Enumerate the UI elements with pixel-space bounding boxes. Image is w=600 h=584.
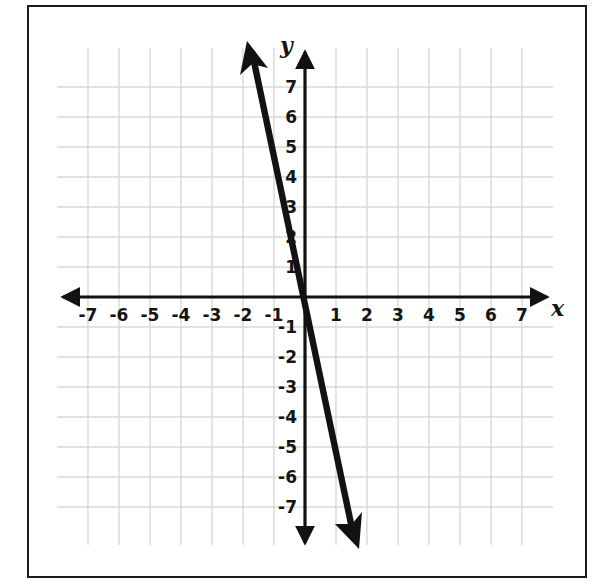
y-tick-label: 3 xyxy=(285,199,297,216)
x-tick-label: -5 xyxy=(141,307,160,324)
x-tick-label: -7 xyxy=(79,307,98,324)
x-tick-label: 5 xyxy=(454,307,466,324)
y-tick-label: -3 xyxy=(278,379,297,396)
y-axis-label: y xyxy=(280,34,293,56)
y-tick-label: -4 xyxy=(278,409,297,426)
y-tick-label: -2 xyxy=(278,349,297,366)
x-tick-label: -4 xyxy=(172,307,191,324)
y-tick-label: -7 xyxy=(278,499,297,516)
y-tick-label: 6 xyxy=(285,109,297,126)
x-tick-label: -2 xyxy=(234,307,253,324)
graph-figure: -7 -6 -5 -4 -3 -2 -1 1 2 3 4 5 6 7 7 6 5… xyxy=(0,0,600,584)
x-tick-label: 7 xyxy=(516,307,528,324)
x-tick-label: 1 xyxy=(330,307,342,324)
x-tick-label: -3 xyxy=(203,307,222,324)
coordinate-plane: -7 -6 -5 -4 -3 -2 -1 1 2 3 4 5 6 7 7 6 5… xyxy=(0,0,600,584)
y-tick-label: 7 xyxy=(285,79,297,96)
x-tick-label: -6 xyxy=(110,307,129,324)
x-tick-label: 2 xyxy=(361,307,373,324)
x-tick-label: 6 xyxy=(485,307,497,324)
y-tick-label: 4 xyxy=(285,169,297,186)
y-tick-label: -6 xyxy=(278,469,297,486)
y-tick-label: 5 xyxy=(285,139,297,156)
x-tick-label: 3 xyxy=(392,307,404,324)
y-tick-label: -1 xyxy=(278,319,297,336)
x-tick-label: 4 xyxy=(423,307,435,324)
coordinate-plane-svg xyxy=(0,0,600,584)
y-tick-label: 1 xyxy=(285,259,297,276)
x-axis-label: x xyxy=(551,297,564,319)
y-tick-label: -5 xyxy=(278,439,297,456)
y-tick-label: 2 xyxy=(285,229,297,246)
